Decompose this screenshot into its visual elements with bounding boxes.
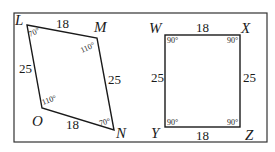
side-label-lm: 18 (56, 16, 69, 31)
vertex-label-y: Y (151, 125, 161, 141)
geometry-figure: L M N O 18 25 18 25 70° 110° 70° 110° W … (0, 0, 275, 152)
vertex-label-x: X (240, 20, 251, 36)
vertex-label-w: W (149, 20, 163, 36)
side-label-wx: 18 (196, 20, 209, 35)
rectangle-wxzy (165, 35, 240, 127)
angle-label-y: 90° (167, 118, 178, 127)
angle-label-n: 70° (98, 116, 111, 128)
vertex-label-o: O (32, 113, 43, 129)
side-label-mn: 25 (108, 72, 121, 87)
side-label-yw: 25 (151, 70, 164, 85)
side-label-zy: 18 (196, 128, 209, 143)
vertex-label-n: N (115, 125, 127, 141)
side-label-xz: 25 (243, 70, 256, 85)
vertex-label-m: M (93, 19, 108, 35)
vertex-label-z: Z (245, 127, 254, 143)
angle-label-o: 110° (41, 93, 58, 107)
angle-label-m: 110° (79, 40, 96, 54)
angle-label-z: 90° (227, 118, 238, 127)
angle-label-w: 90° (167, 36, 178, 45)
figure-canvas: L M N O 18 25 18 25 70° 110° 70° 110° W … (0, 0, 275, 152)
vertex-label-l: L (14, 12, 23, 28)
side-label-ol: 25 (19, 61, 32, 76)
side-label-no: 18 (66, 117, 79, 132)
angle-label-x: 90° (227, 36, 238, 45)
